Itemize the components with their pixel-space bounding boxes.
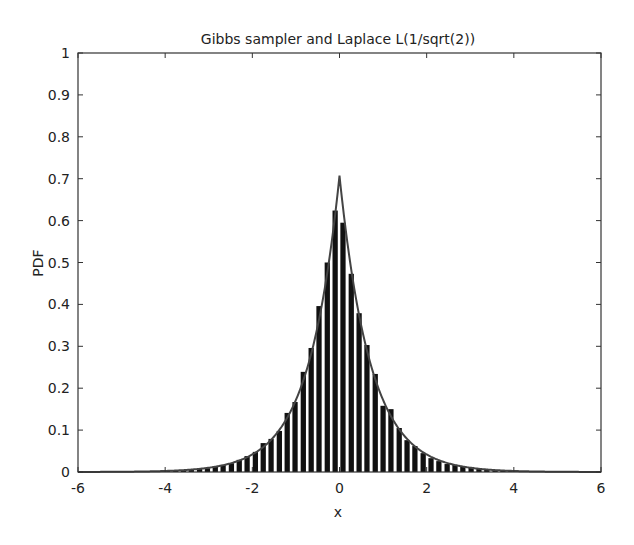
histogram-bar (340, 223, 345, 472)
y-tick-label: 0.7 (48, 171, 70, 187)
y-tick-label: 0.5 (48, 255, 70, 271)
histogram-bar (397, 428, 402, 472)
laplace-density-line (78, 176, 601, 472)
x-tick-label: 2 (422, 480, 431, 496)
x-axis-label: x (334, 504, 342, 520)
x-tick-label: -2 (245, 480, 259, 496)
histogram-bar (356, 313, 361, 472)
histogram-bar (268, 439, 273, 472)
histogram-bar (325, 263, 330, 473)
histogram-bar (277, 431, 282, 472)
histogram-bar (404, 440, 409, 472)
y-axis-ticks: 00.10.20.30.40.50.60.70.80.91 (48, 45, 601, 480)
histogram-bar (445, 464, 450, 472)
histogram-bar (436, 461, 441, 472)
histogram-bar (349, 274, 354, 472)
y-tick-label: 0.8 (48, 129, 70, 145)
histogram-bar (333, 211, 338, 472)
axes-frame (78, 53, 601, 472)
y-tick-label: 1 (61, 45, 70, 61)
histogram-bar (309, 348, 314, 472)
histogram-bar (428, 458, 433, 472)
y-tick-label: 0 (61, 464, 70, 480)
histogram-chart: Gibbs sampler and Laplace L(1/sqrt(2)) -… (0, 0, 634, 545)
y-axis-label: PDF (30, 249, 46, 276)
histogram-bar (292, 402, 297, 472)
histogram-bar (412, 446, 417, 472)
x-axis-ticks: -6-4-20246 (71, 53, 606, 496)
chart-title: Gibbs sampler and Laplace L(1/sqrt(2)) (201, 31, 475, 47)
histogram-bars (157, 211, 522, 472)
y-tick-label: 0.3 (48, 338, 70, 354)
y-tick-label: 0.9 (48, 87, 70, 103)
x-tick-label: 4 (509, 480, 518, 496)
y-tick-label: 0.6 (48, 213, 70, 229)
x-tick-label: 0 (335, 480, 344, 496)
x-tick-label: 6 (597, 480, 606, 496)
histogram-bar (421, 453, 426, 472)
histogram-bar (364, 345, 369, 472)
histogram-bar (373, 374, 378, 472)
histogram-bar (380, 406, 385, 472)
y-tick-label: 0.1 (48, 422, 70, 438)
x-tick-label: -4 (158, 480, 172, 496)
y-tick-label: 0.2 (48, 380, 70, 396)
x-tick-label: -6 (71, 480, 85, 496)
y-tick-label: 0.4 (48, 296, 70, 312)
